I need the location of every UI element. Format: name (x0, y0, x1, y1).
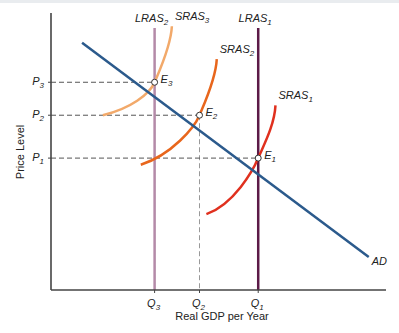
equilibrium-points (152, 79, 262, 161)
equilibrium-point-3 (152, 79, 158, 85)
lras1-label: LRAS1 (239, 12, 272, 27)
equilibrium-point-2 (197, 112, 203, 118)
ad-line-group (82, 43, 369, 257)
ad-label: AD (371, 255, 387, 267)
equilibrium-label-3: E3 (161, 73, 173, 88)
chart: P3P2P1Q3Q2Q1ADLRAS2LRAS1SRAS3SRAS2SRAS1E… (0, 0, 399, 333)
x-axis-label: Real GDP per Year (175, 310, 269, 322)
labels: P3P2P1Q3Q2Q1ADLRAS2LRAS1SRAS3SRAS2SRAS1E… (32, 10, 387, 312)
equilibrium-point-1 (255, 155, 261, 161)
y-tick-label-2: P2 (32, 108, 44, 123)
y-tick-label-1: P1 (32, 151, 44, 166)
equilibrium-label-2: E2 (206, 106, 218, 121)
sras3-label: SRAS3 (175, 10, 210, 25)
lras2-label: LRAS2 (135, 12, 169, 27)
x-tick-label-3: Q3 (147, 297, 161, 312)
lras-lines (155, 28, 259, 290)
axes (51, 13, 386, 290)
ad-line (82, 43, 369, 257)
y-axis-label: Price Level (14, 125, 26, 179)
sras2-label: SRAS2 (220, 43, 255, 58)
sras1-label: SRAS1 (278, 89, 312, 104)
y-tick-label-3: P3 (32, 75, 44, 90)
equilibrium-label-1: E1 (264, 149, 276, 164)
